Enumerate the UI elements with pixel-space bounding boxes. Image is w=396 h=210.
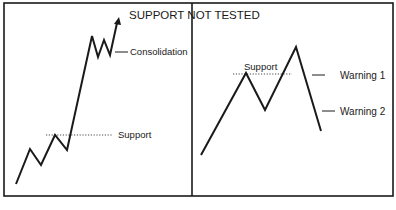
left-panel: Support Consolidation [16, 17, 188, 184]
support-label-right: Support [244, 61, 278, 72]
diagram-title: SUPPORT NOT TESTED [129, 9, 260, 21]
arrow-up-icon [114, 17, 121, 25]
support-label-left: Support [118, 129, 152, 140]
price-line-uptrend [16, 23, 117, 184]
warning1-label: Warning 1 [340, 70, 386, 81]
outer-frame [4, 3, 393, 196]
right-panel: Support Warning 1 Warning 2 [201, 47, 386, 155]
warning2-label: Warning 2 [340, 106, 386, 117]
consolidation-label: Consolidation [130, 46, 188, 57]
diagram: SUPPORT NOT TESTED Support Consolidation… [0, 0, 396, 210]
